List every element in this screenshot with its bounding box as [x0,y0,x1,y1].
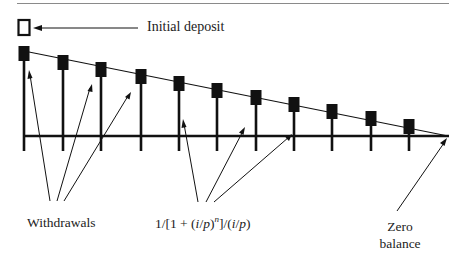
zero-balance-label: Zero balance [375,220,425,250]
withdrawal-square [289,97,300,112]
withdrawal-square [136,69,147,84]
withdrawal-square [404,119,415,134]
arrowhead-icon [440,138,447,146]
formula-arrowheads [182,119,293,141]
arrowhead-icon [182,119,187,128]
arrowhead-icon [239,127,245,135]
arrowhead-icon [28,70,33,79]
balance-line [24,51,448,136]
zero-balance-line2: balance [375,237,425,251]
withdrawal-square [19,46,30,61]
annuity-withdrawal-diagram: Initial deposit Withdrawals 1/[1 + (i/p)… [0,0,468,257]
arrowhead-icon [33,25,42,31]
withdrawal-square [212,83,223,98]
withdrawal-square [327,104,338,119]
initial-deposit-label: Initial deposit [147,20,224,34]
arrowhead-icon [88,84,93,92]
formula-text: ]/( [219,216,232,231]
formula-label: 1/[1 + (i/p)n]/(i/p) [155,217,250,231]
formula-var-p: p [203,216,210,231]
formula-var-p: p [239,216,246,231]
withdrawals-arrows [30,75,128,201]
initial-deposit-box [19,20,30,35]
withdrawal-square [366,111,377,126]
withdrawal-square [96,62,107,77]
withdrawal-square [174,76,185,91]
withdrawals-arrowheads [28,70,132,100]
formula-text: ) [246,216,251,231]
withdrawal-square [58,55,69,70]
zero-balance-line1: Zero [375,220,425,234]
withdrawal-square [251,90,262,105]
zero-balance-arrow [397,143,444,211]
formula-text: 1/[1 + ( [155,216,196,231]
withdrawals-label: Withdrawals [27,216,95,230]
arrowhead-icon [125,92,131,100]
